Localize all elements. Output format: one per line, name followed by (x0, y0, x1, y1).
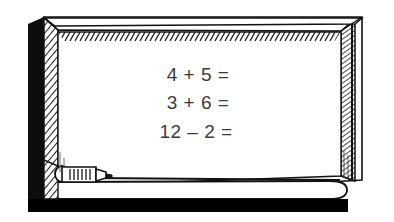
equation-line-3: 12 – 2 = (159, 121, 232, 142)
equation-line-1: 4 + 5 = (167, 64, 230, 85)
equations-group: 4 + 5 = 3 + 6 = 12 – 2 = (159, 64, 232, 142)
equation-line-2: 3 + 6 = (167, 92, 230, 113)
frame-band-top (44, 18, 362, 26)
whiteboard-illustration: 4 + 5 = 3 + 6 = 12 – 2 = (0, 0, 394, 222)
illustration-canvas: 4 + 5 = 3 + 6 = 12 – 2 = (0, 0, 394, 222)
